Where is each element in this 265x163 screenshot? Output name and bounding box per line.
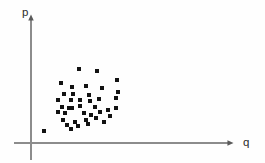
- data-point: [70, 85, 73, 88]
- data-point: [69, 98, 72, 101]
- data-point: [86, 122, 89, 125]
- data-point: [70, 106, 73, 109]
- data-point: [84, 118, 87, 121]
- data-point: [56, 110, 59, 113]
- data-point: [93, 105, 96, 108]
- data-point: [71, 92, 74, 95]
- data-point: [78, 98, 81, 101]
- data-point: [100, 86, 103, 89]
- data-point: [73, 120, 76, 123]
- data-point: [88, 99, 91, 102]
- data-point: [63, 111, 66, 114]
- data-point: [59, 81, 62, 84]
- data-point: [102, 120, 105, 123]
- data-point: [60, 105, 63, 108]
- data-point: [56, 98, 59, 101]
- data-point: [114, 96, 117, 99]
- data-point: [89, 113, 92, 116]
- data-point: [94, 116, 97, 119]
- axes-group: [14, 20, 228, 160]
- data-point: [69, 127, 72, 130]
- data-point: [67, 106, 70, 109]
- data-point: [61, 118, 64, 121]
- data-point: [95, 69, 98, 72]
- data-point: [77, 67, 80, 70]
- x-axis-label: q: [243, 136, 249, 148]
- y-axis-label: p: [22, 6, 28, 18]
- data-point: [84, 84, 87, 87]
- data-point: [115, 78, 118, 81]
- data-point: [82, 111, 85, 114]
- plot-canvas: q p: [0, 0, 265, 163]
- axis-labels-group: q p: [22, 6, 249, 148]
- data-point: [114, 106, 117, 109]
- data-point: [62, 92, 65, 95]
- data-point: [76, 124, 79, 127]
- data-point: [42, 129, 45, 132]
- data-point: [65, 123, 68, 126]
- data-point: [98, 110, 101, 113]
- data-point: [97, 97, 100, 100]
- scatter-points-group: [42, 67, 119, 132]
- data-point: [87, 93, 90, 96]
- data-point: [116, 90, 119, 93]
- data-point: [106, 108, 109, 111]
- data-point: [108, 114, 111, 117]
- data-point: [78, 104, 81, 107]
- scatter-plot-figure: q p: [0, 0, 265, 163]
